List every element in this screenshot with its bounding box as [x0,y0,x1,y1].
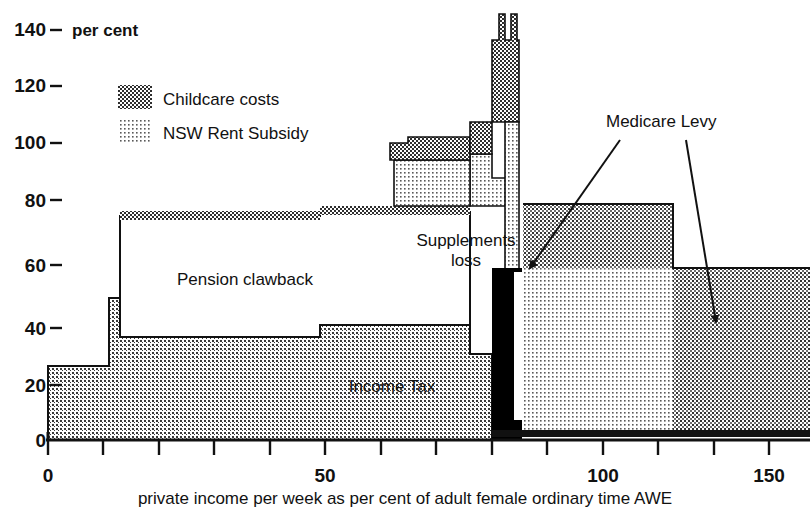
y-tick-label: 80 [25,190,46,211]
y-tick-labels: 140 120 100 80 60 40 20 0 [14,19,46,451]
y-tick-label: 40 [25,318,46,339]
series-supplements-rent-lower [394,160,470,206]
y-ticks [50,30,62,385]
y-tick-label: 60 [25,255,46,276]
annotation-pension-clawback: Pension clawback [177,270,314,289]
medicare-gap [514,272,523,420]
y-tick-label: 20 [25,375,46,396]
clawback-cap-left [120,211,320,220]
x-ticks [48,440,769,455]
chart-svg: 140 120 100 80 60 40 20 0 0 50 100 150 p… [0,0,810,510]
legend-label-childcare-costs: Childcare costs [163,90,279,109]
unit-header: per cent [72,21,138,40]
baseline-strip [492,430,810,437]
series-childcare-right-upper [523,204,673,268]
legend-swatch-nsw-rent-subsidy [118,118,152,142]
annotation-supplements-loss-line2: loss [451,251,481,270]
x-caption-layer: private income per week as per cent of a… [0,486,810,510]
y-tick-label: 120 [14,75,46,96]
series-supplements-childcare [390,137,470,160]
y-tick-label: 100 [14,132,46,153]
series-peak-spikes [492,14,519,122]
x-tick-label: 50 [314,465,335,486]
x-tick-labels: 0 50 100 150 [43,465,785,486]
legend-swatch-childcare-costs [118,85,152,109]
y-tick-label: 0 [35,430,46,451]
x-tick-label: 100 [587,465,619,486]
legend: Childcare costs NSW Rent Subsidy [118,85,309,143]
series-peak-rent-column [505,122,519,288]
y-tick-label: 140 [14,19,46,40]
annotation-income-tax: Income Tax [349,377,436,396]
annotation-supplements-loss-line1: Supplements [416,231,515,250]
series-rent-subsidy-right [523,268,673,435]
legend-label-nsw-rent-subsidy: NSW Rent Subsidy [163,124,309,143]
series-peak-childcare-mid [470,122,492,154]
chart-figure: 140 120 100 80 60 40 20 0 0 50 100 150 p… [0,0,810,510]
x-tick-label: 0 [43,465,54,486]
clawback-cap-right [320,206,470,215]
annotation-medicare-levy: Medicare Levy [606,112,717,131]
x-tick-label: 150 [753,465,785,486]
series-childcare-far-right [673,268,810,435]
x-axis-caption: private income per week as per cent of a… [138,489,672,508]
